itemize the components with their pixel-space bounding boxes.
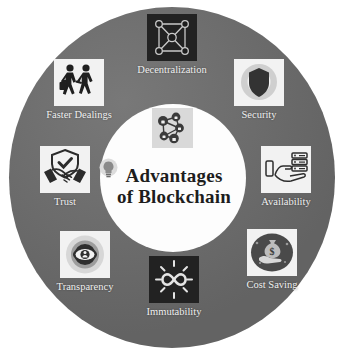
node-decentralization[interactable]: Decentralization [124,14,220,76]
blockchain-network-lock-icon [152,108,193,148]
node-label: Trust [17,196,113,208]
node-label: Faster Dealings [31,109,127,121]
node-immutability[interactable]: Immutability [126,256,222,318]
network-mesh-icon [147,14,197,61]
node-faster-dealings[interactable]: Faster Dealings [31,59,127,121]
hand-money-bag-icon: $ [247,229,297,276]
title-line-2: of Blockchain [117,186,231,207]
hand-server-icon [261,146,311,193]
node-cost-saving[interactable]: $ Cost Saving [224,229,320,291]
page-title: Advantages of Blockchain [108,165,240,207]
node-transparency[interactable]: Transparency [37,231,133,293]
node-label: Decentralization [124,64,220,76]
node-availability[interactable]: Availability [238,146,334,208]
node-security[interactable]: Security [211,59,307,121]
svg-text:$: $ [270,246,275,257]
shield-icon [234,59,284,106]
node-label: Cost Saving [224,279,320,291]
node-label: Availability [238,196,334,208]
infographic-canvas: Advantages of Blockchain Decentralizatio… [0,0,344,355]
shield-handshake-icon [40,146,90,193]
title-line-1: Advantages [125,165,222,186]
eye-icon [60,231,110,278]
two-people-walking-icon [54,59,104,106]
node-label: Immutability [126,306,222,318]
node-label: Transparency [37,281,133,293]
node-trust[interactable]: Trust [17,146,113,208]
infinity-rays-icon [149,256,199,303]
node-label: Security [211,109,307,121]
